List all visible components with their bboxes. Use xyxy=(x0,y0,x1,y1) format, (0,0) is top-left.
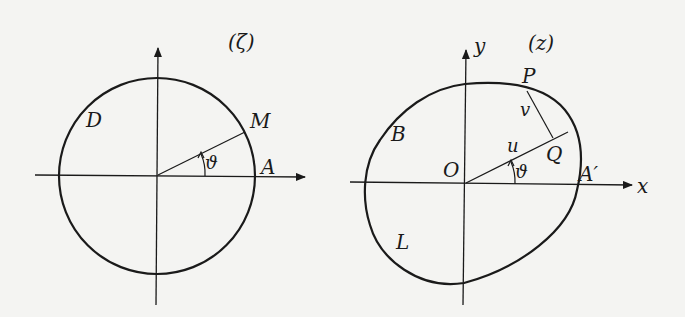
segment-v xyxy=(527,91,553,138)
label-A: A xyxy=(261,157,275,177)
label-B: B xyxy=(391,124,406,144)
label-M: M xyxy=(250,111,270,131)
label-x: x xyxy=(637,176,648,196)
label-Q: Q xyxy=(546,144,562,164)
label-D: D xyxy=(86,110,102,130)
label-v: v xyxy=(520,101,530,119)
label-O: O xyxy=(443,160,459,180)
diagram-graphics xyxy=(0,0,685,317)
y-axis xyxy=(463,50,466,305)
zeta-plane-title: (ζ) xyxy=(228,32,254,52)
label-L: L xyxy=(396,232,409,252)
label-theta-zeta: ϑ xyxy=(205,154,218,172)
label-theta-z: ϑ xyxy=(515,163,528,181)
z-plane-title: (z) xyxy=(528,33,554,53)
label-u: u xyxy=(507,137,519,155)
label-A-prime: A′ xyxy=(579,164,598,184)
label-P: P xyxy=(522,66,535,86)
label-y: y xyxy=(474,36,485,56)
figure-canvas: (ζ) D M A ϑ (z) y x P v u B O Q ϑ A′ L xyxy=(0,0,685,317)
